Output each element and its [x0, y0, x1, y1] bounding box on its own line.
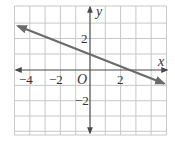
origin-label: O [77, 72, 87, 87]
y-tick-label-2: 2 [81, 31, 88, 46]
graph-line [18, 26, 164, 84]
x-tick-label-neg4: −4 [19, 72, 33, 87]
y-axis-label: y [94, 4, 103, 19]
x-axis-label: x [157, 54, 165, 69]
y-tick-label-neg2: −2 [75, 93, 89, 108]
coordinate-plane: y x O −4 −2 2 2 −2 [0, 0, 175, 141]
x-tick-label-2: 2 [117, 72, 124, 87]
x-tick-label-neg2: −2 [49, 72, 63, 87]
